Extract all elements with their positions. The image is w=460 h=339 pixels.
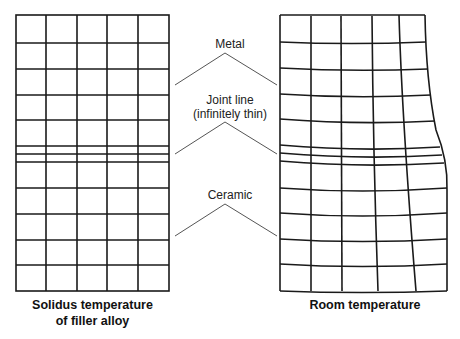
left-grid-border — [16, 15, 169, 291]
joint-line-sublabel: (infinitely thin) — [175, 107, 285, 121]
right-grid — [280, 15, 447, 293]
pointer-lines — [175, 53, 277, 236]
metal-pointer — [175, 53, 277, 85]
right-caption: Room temperature — [280, 297, 450, 313]
left-caption-line1: Solidus temperature — [10, 297, 175, 313]
ceramic-pointer — [175, 204, 277, 236]
left-caption-line2: of filler alloy — [10, 313, 175, 329]
joint-line-label: Joint line — [175, 93, 285, 107]
ceramic-label: Ceramic — [190, 188, 270, 202]
metal-label: Metal — [190, 37, 270, 51]
joint-line-pointer — [175, 122, 277, 154]
left-grid — [16, 15, 169, 291]
